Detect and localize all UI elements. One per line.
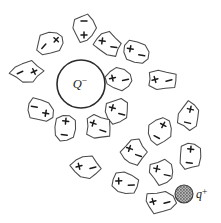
dipole-minus-sign xyxy=(61,135,67,136)
dipole-outline xyxy=(118,135,150,168)
dipole-molecule xyxy=(8,60,44,84)
dipole-molecule xyxy=(175,99,201,131)
test-charge-circle xyxy=(175,185,193,203)
dipole-outline xyxy=(73,14,97,42)
dipole-molecule xyxy=(148,70,176,91)
dipole-minus-sign xyxy=(139,55,145,56)
dipole-minus-sign xyxy=(111,47,117,48)
dipole-molecule xyxy=(145,190,177,215)
dipole-minus-sign xyxy=(31,106,37,107)
dipole-outline xyxy=(143,154,178,189)
dipole-molecule xyxy=(143,154,178,189)
test-charge-group: q+ xyxy=(175,185,207,203)
dipole-group xyxy=(8,14,202,215)
dipole-molecule xyxy=(110,169,140,196)
dipole-outline xyxy=(69,154,103,180)
dipole-molecule xyxy=(31,26,67,59)
dipole-outline xyxy=(31,26,67,59)
dipole-outline xyxy=(8,60,44,84)
dipole-outline xyxy=(119,36,153,68)
polarization-figure: Q− q+ xyxy=(0,0,221,223)
dipole-outline xyxy=(142,113,177,149)
dipole-minus-sign xyxy=(186,163,192,164)
dipole-outline xyxy=(23,95,58,128)
dipole-molecule xyxy=(142,113,177,149)
dipole-molecule xyxy=(54,114,77,142)
dipole-molecule xyxy=(23,95,58,128)
central-charge-group: Q− xyxy=(57,60,105,108)
dipole-outline xyxy=(110,169,140,196)
dipole-molecule xyxy=(92,28,125,59)
dipole-molecule xyxy=(73,14,97,42)
dipole-molecule xyxy=(69,154,103,180)
test-charge-label: q+ xyxy=(196,187,207,202)
dipole-molecule xyxy=(119,36,153,68)
dipole-outline xyxy=(54,114,77,142)
dipole-outline xyxy=(175,99,201,131)
dipole-outline xyxy=(92,28,125,59)
dipole-molecule xyxy=(118,135,150,168)
dipole-molecule xyxy=(179,143,202,171)
figure-canvas: Q− q+ xyxy=(0,0,221,223)
dipole-molecule xyxy=(103,66,133,92)
